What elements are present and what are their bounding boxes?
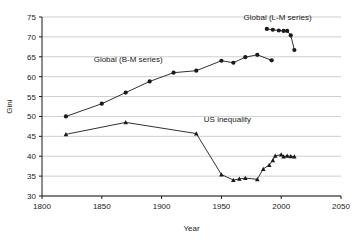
series-label-0: Global (B-M series) xyxy=(94,55,163,64)
series-line-2 xyxy=(66,122,294,180)
data-point-marker xyxy=(271,158,276,162)
x-axis-title: Year xyxy=(183,224,200,233)
y-axis-title: Gini xyxy=(5,99,14,113)
y-tick-label-55: 55 xyxy=(27,93,36,102)
x-tick-label-1900: 1900 xyxy=(153,202,171,211)
y-tick-label-35: 35 xyxy=(27,172,36,181)
data-point-marker xyxy=(261,167,266,171)
series-label-1: Global (L-M series) xyxy=(244,13,312,22)
data-point-marker xyxy=(64,114,68,118)
data-point-marker xyxy=(281,29,285,33)
y-tick-label-40: 40 xyxy=(27,152,36,161)
data-point-marker xyxy=(243,55,247,59)
y-tick-label-70: 70 xyxy=(27,33,36,42)
data-point-marker xyxy=(219,172,224,176)
y-tick-label-75: 75 xyxy=(27,13,36,22)
data-point-marker xyxy=(271,28,275,32)
y-tick-label-30: 30 xyxy=(27,192,36,201)
x-tick-label-2000: 2000 xyxy=(272,202,290,211)
series-1 xyxy=(265,27,297,52)
data-point-marker xyxy=(285,29,289,33)
x-tick-label-1850: 1850 xyxy=(93,202,111,211)
x-tick-label-1950: 1950 xyxy=(213,202,231,211)
series-line-1 xyxy=(267,29,295,50)
y-tick-label-65: 65 xyxy=(27,53,36,62)
data-point-marker xyxy=(255,53,259,57)
gini-inequality-chart: 3035404550556065707518001850190019502000… xyxy=(0,0,357,240)
data-point-marker xyxy=(171,71,175,75)
data-point-marker xyxy=(124,90,128,94)
data-point-marker xyxy=(219,59,223,63)
data-point-marker xyxy=(194,69,198,73)
data-point-marker xyxy=(148,79,152,83)
data-point-marker xyxy=(265,27,269,31)
data-point-marker xyxy=(292,48,296,52)
chart-canvas: 3035404550556065707518001850190019502000… xyxy=(0,0,357,240)
y-tick-label-50: 50 xyxy=(27,112,36,121)
x-tick-label-1800: 1800 xyxy=(33,202,51,211)
series-label-2: US inequality xyxy=(204,115,251,124)
data-point-marker xyxy=(100,102,104,106)
series-2 xyxy=(64,120,297,182)
data-point-marker xyxy=(231,61,235,65)
data-point-marker xyxy=(289,33,293,37)
y-tick-label-45: 45 xyxy=(27,132,36,141)
data-point-marker xyxy=(277,28,281,32)
x-tick-label-2050: 2050 xyxy=(332,202,350,211)
y-tick-label-60: 60 xyxy=(27,73,36,82)
data-point-marker xyxy=(270,58,274,62)
